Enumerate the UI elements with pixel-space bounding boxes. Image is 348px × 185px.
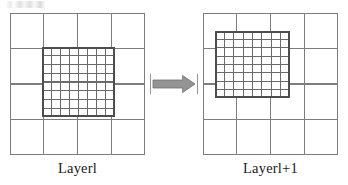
layer-l-fine-grid	[42, 47, 115, 117]
layer-l-plus-1-fine-grid-lines	[215, 31, 290, 98]
scan-artifact	[6, 1, 52, 8]
layer-refinement-figure: Layerl Layerl+1	[0, 0, 348, 185]
rightwards-transition-arrow	[150, 72, 198, 96]
layer-l-coarse-grid	[10, 13, 145, 155]
layer-l-plus-1-coarse-grid	[203, 13, 338, 155]
layer-l-plus-1-caption: Layerl+1	[203, 161, 338, 176]
layer-l-plus-1-fine-grid	[215, 31, 290, 98]
layer-l-fine-grid-lines	[42, 47, 115, 117]
layer-l-caption: Layerl	[10, 161, 145, 176]
